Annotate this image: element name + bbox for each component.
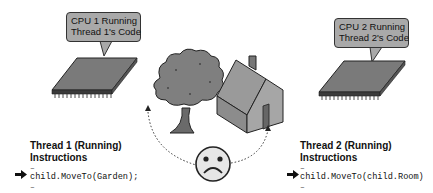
thread1-current-instruction: child.MoveTo(Garden);: [30, 172, 138, 183]
thread1-title-line2: Instructions: [30, 152, 138, 164]
thread2-instructions: Thread 2 (Running) Instructions – child.…: [300, 140, 424, 191]
cpu1-bubble: CPU 1 Running Thread 1's Code: [66, 12, 141, 42]
cpu1-bubble-line2: Thread 1's Code: [71, 26, 136, 37]
thread1-before: –: [30, 164, 138, 172]
thread2-title-line2: Instructions: [300, 152, 424, 164]
bubble-tail-cpu1: [100, 41, 112, 56]
cpu2-bubble: CPU 2 Running Thread 2's Code: [334, 18, 409, 48]
house-icon: [217, 56, 283, 133]
thread2-pointer-arrow-icon: [287, 170, 299, 179]
thread2-title-line1: Thread 2 (Running): [300, 140, 424, 152]
thread2-before: –: [300, 164, 424, 172]
thread1-after: –: [30, 183, 138, 191]
cpu2-chip-icon: [319, 61, 405, 100]
sad-face-icon: [196, 147, 230, 181]
thread1-title-line1: Thread 1 (Running): [30, 140, 138, 152]
cpu1-bubble-line1: CPU 1 Running: [71, 15, 136, 26]
arrowhead-tree: [145, 105, 151, 111]
cpu2-bubble-line2: Thread 2's Code: [339, 32, 404, 43]
cpu1-chip-icon: [52, 58, 137, 98]
thread1-instructions: Thread 1 (Running) Instructions – child.…: [30, 140, 138, 191]
cpu2-bubble-line1: CPU 2 Running: [339, 21, 404, 32]
thread2-current-instruction: child.MoveTo(child.Room): [300, 172, 424, 183]
thread1-pointer-arrow-icon: [15, 170, 27, 179]
bubble-tail-cpu2: [370, 47, 382, 62]
tree-icon: [154, 49, 224, 133]
thread2-after: –: [300, 183, 424, 191]
